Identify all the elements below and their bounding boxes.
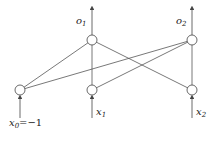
output-node-o2	[187, 35, 197, 45]
input-node-x1	[87, 85, 97, 95]
input-node-x2	[187, 85, 197, 95]
label-x1: x1	[96, 106, 106, 119]
network-diagram: o1 o2 x0=−1 x1 x2	[0, 0, 213, 141]
input-node-x0	[15, 85, 25, 95]
connections	[20, 40, 192, 90]
label-x0: x0=−1	[9, 117, 42, 130]
label-o1: o1	[76, 15, 87, 28]
output-node-o1	[87, 35, 97, 45]
arrows	[20, 8, 192, 118]
label-o2: o2	[176, 15, 187, 28]
label-x2: x2	[196, 106, 207, 119]
